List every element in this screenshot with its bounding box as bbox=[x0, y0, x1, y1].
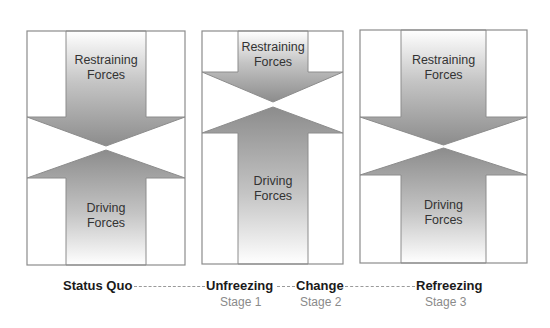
restraining-forces-arrow bbox=[360, 30, 527, 145]
panel-refreezing: RestrainingForcesDrivingForces bbox=[360, 30, 527, 263]
stage-change-label: Change bbox=[296, 278, 344, 293]
restraining-forces-label-line: Restraining bbox=[241, 40, 304, 54]
restraining-forces-arrow bbox=[27, 31, 185, 146]
driving-forces-label-line: Driving bbox=[424, 198, 463, 212]
stage-unfreezing-label: Unfreezing bbox=[206, 278, 273, 293]
driving-forces-label: DrivingForces bbox=[254, 174, 293, 203]
restraining-forces-label-line: Restraining bbox=[412, 53, 475, 67]
panel-change: RestrainingForcesDrivingForces bbox=[202, 31, 343, 264]
driving-forces-label-line: Forces bbox=[87, 216, 125, 230]
connector-dashed-line bbox=[134, 286, 205, 287]
panel-status-quo: RestrainingForcesDrivingForces bbox=[27, 31, 185, 265]
connector-dashed-line bbox=[277, 286, 295, 287]
driving-forces-label-line: Driving bbox=[254, 174, 293, 188]
stage-2-label: Stage 2 bbox=[300, 295, 341, 309]
restraining-forces-label-line: Forces bbox=[87, 68, 125, 82]
restraining-forces-label-line: Forces bbox=[254, 55, 292, 69]
driving-forces-label: DrivingForces bbox=[87, 201, 126, 230]
stage-status-quo-label: Status Quo bbox=[63, 278, 132, 293]
driving-forces-label-line: Driving bbox=[87, 201, 126, 215]
stage-3-label: Stage 3 bbox=[425, 295, 466, 309]
stage-refreezing-label: Refreezing bbox=[416, 278, 482, 293]
driving-forces-label-line: Forces bbox=[254, 189, 292, 203]
stage-1-label: Stage 1 bbox=[220, 295, 261, 309]
driving-forces-label-line: Forces bbox=[424, 213, 462, 227]
restraining-forces-label-line: Restraining bbox=[74, 53, 137, 67]
connector-dashed-line bbox=[345, 286, 415, 287]
restraining-forces-label-line: Forces bbox=[424, 68, 462, 82]
driving-forces-label: DrivingForces bbox=[424, 198, 463, 227]
